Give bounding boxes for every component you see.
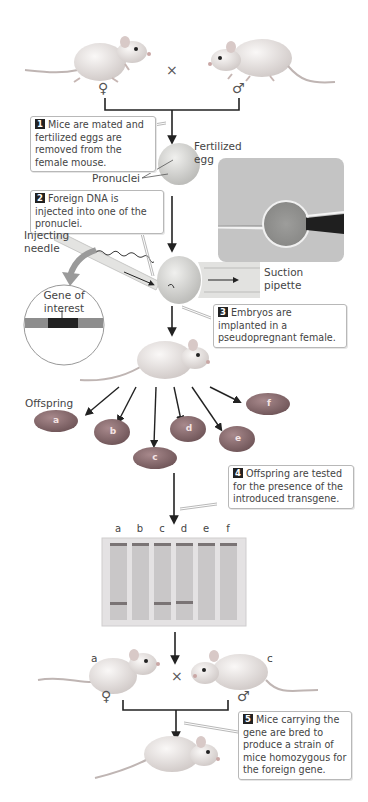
suction-pipette [198, 262, 260, 298]
micrograph-photo [218, 158, 344, 262]
second-cross-female-id: a [91, 652, 97, 665]
step-1-callout: 1Mice are mated and fertilized eggs are … [30, 116, 156, 172]
pronuclei-label: Pronuclei [92, 172, 140, 185]
step-1-text: Mice are mated and fertilized eggs are r… [35, 119, 144, 168]
pup-label-b: b [107, 426, 119, 436]
step-4-text: Offspring are tested for the presence of… [233, 468, 343, 504]
step-3-callout: 3Embryos are implanted in a pseudopregna… [213, 304, 347, 348]
step-1-number: 1 [35, 119, 45, 129]
gel-electrophoresis [102, 538, 246, 626]
step-2-text: Foreign DNA is injected into one of the … [35, 193, 147, 229]
female-symbol-bottom: ♀ [101, 688, 111, 704]
gel-lane-label-c: c [152, 523, 172, 534]
foster-mother-mouse [80, 339, 210, 380]
cross-symbol-top: × [166, 62, 178, 78]
second-cross-male-id: c [267, 652, 273, 665]
male-symbol-top: ♂ [232, 80, 245, 96]
gel-lane-label-a: a [108, 523, 128, 534]
pup-label-c: c [149, 452, 161, 462]
gene-of-interest-label: Gene of interest [40, 289, 88, 315]
step-5-text: Mice carrying the gene are bred to produ… [243, 714, 346, 775]
homozygous-mouse [95, 736, 220, 778]
gel-lane-label-f: f [218, 523, 238, 534]
female-mouse-top [25, 36, 151, 82]
female-symbol-top: ♀ [98, 80, 108, 96]
step-4-number: 4 [233, 468, 243, 478]
male-symbol-bottom: ♂ [237, 688, 250, 704]
gel-lane-label-e: e [196, 523, 216, 534]
male-mouse-top [208, 39, 335, 82]
injected-egg [157, 256, 201, 304]
step-3-text: Embryos are implanted in a pseudopregnan… [218, 307, 336, 343]
step-3-number: 3 [218, 307, 228, 317]
suction-pipette-label: Suction pipette [264, 266, 314, 292]
pup-label-f: f [263, 398, 275, 408]
pup-label-e: e [232, 433, 244, 443]
step-2-number: 2 [35, 193, 45, 203]
pup-label-a: a [50, 415, 62, 425]
step-5-callout: 5Mice carrying the gene are bred to prod… [238, 711, 352, 780]
male-mouse-c [191, 650, 318, 691]
fertilized-egg-label: Fertilized egg [194, 140, 254, 166]
gel-lane-label-b: b [130, 523, 150, 534]
female-mouse-a [38, 649, 160, 694]
step-5-number: 5 [243, 714, 253, 724]
step-2-callout: 2Foreign DNA is injected into one of the… [30, 190, 164, 234]
gel-lane-label-d: d [174, 523, 194, 534]
pup-label-d: d [183, 423, 195, 433]
cross-symbol-bottom: × [171, 668, 183, 684]
offspring-label: Offspring [25, 397, 73, 410]
injecting-needle-label: Injecting needle [24, 229, 74, 255]
step-4-callout: 4Offspring are tested for the presence o… [228, 465, 354, 509]
